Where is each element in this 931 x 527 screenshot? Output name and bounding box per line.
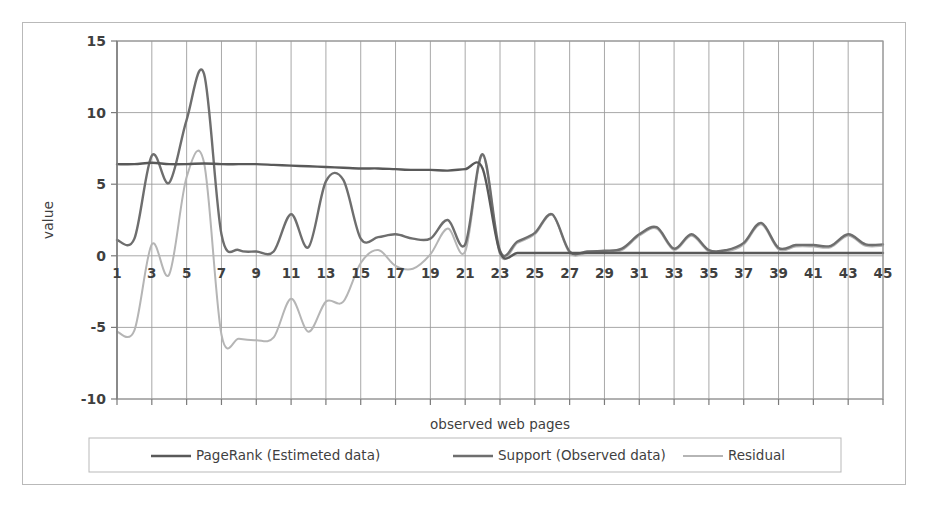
axes xyxy=(111,41,883,405)
x-tick-label: 33 xyxy=(665,265,684,281)
y-tick-label: 0 xyxy=(96,248,106,264)
x-tick-label: 7 xyxy=(217,265,226,281)
chart-frame: 151050-5-1013579111315171921232527293133… xyxy=(22,22,906,485)
x-tick-label: 11 xyxy=(282,265,301,281)
line-chart: 151050-5-1013579111315171921232527293133… xyxy=(23,23,907,486)
x-tick-label: 29 xyxy=(595,265,614,281)
x-tick-label: 43 xyxy=(839,265,858,281)
legend-label: Support (Observed data) xyxy=(498,447,666,463)
x-tick-label: 19 xyxy=(421,265,440,281)
x-tick-label: 45 xyxy=(874,265,893,281)
x-tick-label: 41 xyxy=(804,265,823,281)
y-axis-title: value xyxy=(40,201,56,239)
x-tick-label: 23 xyxy=(491,265,510,281)
x-tick-label: 1 xyxy=(112,265,121,281)
x-tick-label: 5 xyxy=(182,265,191,281)
x-tick-label: 27 xyxy=(560,265,579,281)
legend-label: Residual xyxy=(728,447,785,463)
x-tick-label: 3 xyxy=(147,265,156,281)
y-tick-label: 10 xyxy=(87,105,107,121)
x-tick-label: 39 xyxy=(769,265,788,281)
x-tick-label: 25 xyxy=(525,265,544,281)
x-tick-label: 15 xyxy=(351,265,370,281)
legend: PageRank (Estimeted data)Support (Observ… xyxy=(89,438,841,472)
x-tick-label: 9 xyxy=(252,265,261,281)
x-tick-label: 17 xyxy=(386,265,405,281)
axis-text: 151050-5-1013579111315171921232527293133… xyxy=(40,33,892,432)
x-tick-label: 35 xyxy=(700,265,719,281)
x-tick-label: 31 xyxy=(630,265,649,281)
y-tick-label: -5 xyxy=(90,319,106,335)
y-tick-label: -10 xyxy=(81,391,107,407)
x-tick-label: 13 xyxy=(317,265,336,281)
y-tick-label: 15 xyxy=(87,33,106,49)
x-tick-label: 21 xyxy=(456,265,475,281)
x-tick-label: 37 xyxy=(734,265,753,281)
x-axis-title: observed web pages xyxy=(430,416,570,432)
legend-label: PageRank (Estimeted data) xyxy=(196,447,380,463)
chart-root: 151050-5-1013579111315171921232527293133… xyxy=(0,0,931,527)
y-tick-label: 5 xyxy=(96,176,106,192)
